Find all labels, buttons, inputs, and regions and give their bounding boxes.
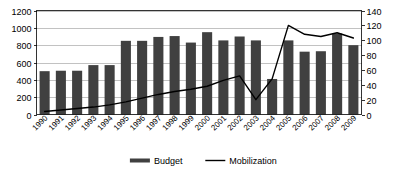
- right-tick-label: 100: [367, 36, 382, 46]
- bar-2000: [202, 32, 212, 114]
- legend: BudgetMobilization: [130, 156, 277, 166]
- category-label-1995: 1995: [112, 113, 131, 132]
- category-label-2005: 2005: [274, 113, 293, 132]
- right-tick-label: 140: [367, 7, 382, 17]
- category-label-1992: 1992: [63, 113, 82, 132]
- bar-1990: [40, 71, 50, 114]
- legend-label-budget: Budget: [154, 156, 183, 166]
- category-label-1990: 1990: [31, 113, 50, 132]
- bar-1996: [137, 41, 147, 115]
- gridlines: [37, 12, 362, 98]
- left-tick-label: 1000: [11, 24, 31, 34]
- bar-1995: [121, 41, 131, 115]
- bar-1998: [170, 36, 180, 114]
- category-label-2006: 2006: [291, 113, 310, 132]
- right-tick-label: 20: [367, 96, 377, 106]
- plot-frame: [37, 11, 362, 115]
- category-axis: 1990199119921993199419951996199719981999…: [31, 113, 359, 132]
- left-tick-label: 800: [16, 41, 31, 51]
- category-label-1998: 1998: [161, 113, 180, 132]
- bar-1997: [153, 37, 163, 115]
- category-label-1993: 1993: [79, 113, 98, 132]
- category-label-1997: 1997: [144, 113, 163, 132]
- bar-2007: [316, 51, 326, 114]
- bar-2008: [332, 33, 342, 114]
- bar-1994: [105, 65, 115, 114]
- bar-1991: [56, 71, 66, 115]
- category-label-2003: 2003: [242, 113, 261, 132]
- right-tick-label: 80: [367, 51, 377, 61]
- category-label-1996: 1996: [128, 113, 147, 132]
- left-axis: 020040060080010001200: [11, 7, 36, 121]
- bar-2001: [218, 40, 228, 114]
- left-tick-label: 200: [16, 93, 31, 103]
- right-tick-label: 0: [367, 111, 372, 121]
- left-tick-label: 1200: [11, 7, 31, 17]
- bar-2005: [283, 40, 293, 114]
- left-tick-label: 600: [16, 59, 31, 69]
- bar-2003: [251, 40, 261, 114]
- left-tick-label: 400: [16, 76, 31, 86]
- right-axis: 020406080100120140: [362, 7, 382, 121]
- category-label-2009: 2009: [339, 113, 358, 132]
- category-label-1999: 1999: [177, 113, 196, 132]
- category-label-2002: 2002: [226, 113, 245, 132]
- bar-1999: [186, 43, 196, 115]
- category-label-2008: 2008: [323, 113, 342, 132]
- bar-series-budget: [40, 32, 359, 114]
- combo-chart: 0200400600800100012000204060801001201401…: [0, 0, 418, 175]
- category-label-2004: 2004: [258, 113, 277, 132]
- bar-2006: [300, 52, 310, 115]
- left-tick-label: 0: [26, 111, 31, 121]
- chart-canvas: 0200400600800100012000204060801001201401…: [0, 0, 418, 175]
- category-label-1991: 1991: [47, 113, 66, 132]
- right-tick-label: 120: [367, 21, 382, 31]
- right-tick-label: 60: [367, 66, 377, 76]
- category-label-2000: 2000: [193, 113, 212, 132]
- category-label-1994: 1994: [96, 113, 115, 132]
- bar-2009: [348, 45, 358, 114]
- category-label-2001: 2001: [209, 113, 228, 132]
- category-label-2007: 2007: [307, 113, 326, 132]
- legend-label-mobilization: Mobilization: [229, 156, 277, 166]
- right-tick-label: 40: [367, 81, 377, 91]
- legend-swatch-budget: [130, 159, 150, 163]
